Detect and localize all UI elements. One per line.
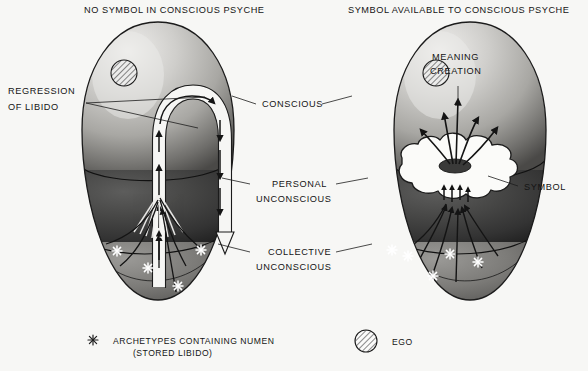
collective-unconscious-label-line1: COLLECTIVE	[268, 247, 331, 257]
archetype-star-icon	[196, 245, 206, 255]
legend-ego-label: EGO	[392, 337, 413, 347]
diagram-canvas: NO SYMBOL IN CONSCIOUS PSYCHE SYMBOL AVA…	[0, 0, 588, 371]
archetype-star-icon	[173, 281, 183, 291]
meaning-creation-line1: MEANING	[432, 52, 479, 62]
archetype-star-icon	[428, 271, 438, 281]
archetype-star-icon	[112, 246, 122, 256]
right-panel-title: SYMBOL AVAILABLE TO CONSCIOUS PSYCHE	[348, 5, 569, 15]
left-ego-icon	[111, 60, 137, 86]
legend-ego-icon	[355, 330, 377, 352]
personal-unconscious-label-line1: PERSONAL	[272, 179, 327, 189]
archetype-star-icon	[143, 263, 153, 273]
psyche-diagram-svg: NO SYMBOL IN CONSCIOUS PSYCHE SYMBOL AVA…	[0, 0, 588, 371]
legend-archetype-line2: (STORED LIBIDO)	[133, 348, 212, 358]
regression-label-line2: OF LIBIDO	[8, 102, 59, 112]
symbol-label: SYMBOL	[524, 182, 566, 192]
left-panel-title: NO SYMBOL IN CONSCIOUS PSYCHE	[84, 5, 265, 15]
archetype-star-icon	[473, 257, 483, 267]
collective-unconscious-label-line2: UNCONSCIOUS	[256, 262, 332, 272]
archetype-star-icon	[403, 251, 413, 261]
legend-archetype-star-icon	[88, 335, 98, 345]
legend-archetype-line1: ARCHETYPES CONTAINING NUMEN	[113, 336, 274, 346]
regression-label-line1: REGRESSION	[8, 86, 75, 96]
conscious-label: CONSCIOUS	[262, 99, 323, 109]
meaning-creation-line2: CREATION	[430, 66, 482, 76]
archetype-star-icon	[387, 245, 397, 255]
archetype-star-icon	[445, 249, 455, 259]
personal-unconscious-label-line2: UNCONSCIOUS	[256, 194, 332, 204]
